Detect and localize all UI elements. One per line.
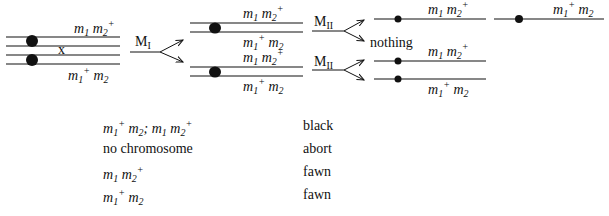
nothing-label: nothing (370, 35, 413, 50)
product-top-1: m1 m2+ (374, 0, 486, 23)
svg-text:m1+ m2: m1+ m2 (553, 0, 594, 19)
meiosis-II-arrow-bottom: MII (312, 54, 364, 80)
table-row: m1+ m2; m1 m2+ (103, 118, 192, 138)
svg-text:m1+ m2: m1+ m2 (243, 76, 284, 96)
phenotype: black (303, 118, 333, 138)
genotype: no chromosome (103, 141, 193, 161)
parent-bivalent: x m1 m2+ m1+ m2 (6, 18, 120, 85)
crossover-mark: x (58, 42, 65, 57)
svg-text:MI: MI (135, 34, 151, 51)
phenotype: fawn (303, 187, 331, 207)
product-top-2: m1+ m2 (494, 0, 604, 23)
phenotype: abort (303, 141, 332, 161)
svg-text:m1 m2+: m1 m2+ (74, 18, 115, 38)
svg-text:m1+ m2: m1+ m2 (428, 79, 469, 99)
centromere-icon (26, 35, 38, 47)
meiosis-I-arrow: MI (130, 34, 183, 62)
svg-text:m1 m2+: m1 m2+ (428, 41, 469, 61)
svg-text:MII: MII (314, 14, 333, 31)
svg-text:MII: MII (314, 54, 333, 71)
svg-text:m1+ m2: m1+ m2 (68, 65, 109, 85)
product-bottom-2: m1+ m2 (374, 76, 486, 100)
svg-text:m1 m2+: m1 m2+ (428, 0, 469, 19)
centromere-icon (26, 54, 38, 66)
svg-text:m1 m2+: m1 m2+ (243, 3, 284, 23)
meiosis-II-arrow-top: MII (312, 14, 364, 41)
svg-text:m1 m2+: m1 m2+ (243, 47, 284, 67)
dyad-top: m1 m2+ m1+ m2 (190, 3, 303, 52)
table-row: m1 m2+ (103, 164, 144, 184)
dyad-bottom: m1 m2+ m1+ m2 (190, 47, 303, 96)
table-row: m1+ m2 (103, 187, 144, 207)
phenotype: fawn (303, 164, 331, 184)
